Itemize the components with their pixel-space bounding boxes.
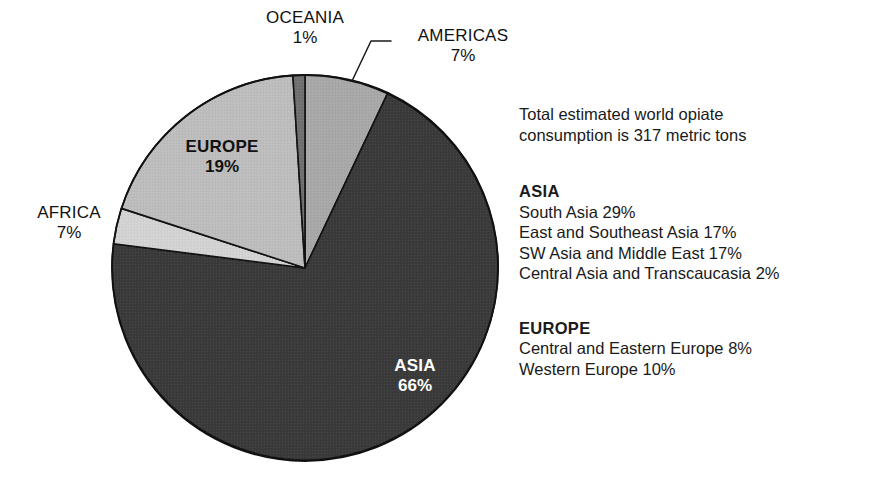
asia-breakdown-row: South Asia 29% [519, 202, 871, 223]
pie-label-africa-name: AFRICA [14, 203, 124, 223]
pie-label-asia-percent: 66% [370, 376, 460, 396]
opiate-consumption-pie-figure: OCEANIA 1% AMERICAS 7% AFRICA 7% EUROPE … [0, 0, 875, 485]
asia-breakdown-row: Central Asia and Transcaucasia 2% [519, 263, 871, 284]
europe-breakdown-group: EUROPE Central and Eastern Europe 8% Wes… [519, 318, 871, 380]
total-consumption-note: Total estimated world opiate consumption… [519, 104, 871, 145]
pie-label-oceania-percent: 1% [230, 28, 380, 48]
pie-label-europe-percent: 19% [152, 157, 292, 177]
europe-breakdown-row: Central and Eastern Europe 8% [519, 338, 871, 359]
asia-breakdown-group: ASIA South Asia 29% East and Southeast A… [519, 181, 871, 284]
pie-label-europe-name: EUROPE [152, 137, 292, 157]
info-panel: Total estimated world opiate consumption… [519, 104, 871, 379]
pie-label-africa-percent: 7% [14, 223, 124, 243]
total-note-line-2: consumption is 317 metric tons [519, 125, 871, 146]
pie-label-oceania: OCEANIA 1% [230, 8, 380, 48]
pie-label-americas-percent: 7% [383, 46, 543, 66]
pie-label-americas: AMERICAS 7% [383, 26, 543, 66]
pie-label-asia: ASIA 66% [370, 356, 460, 396]
pie-label-oceania-name: OCEANIA [230, 8, 380, 28]
europe-breakdown-heading: EUROPE [519, 318, 871, 339]
asia-breakdown-row: East and Southeast Asia 17% [519, 222, 871, 243]
asia-breakdown-row: SW Asia and Middle East 17% [519, 243, 871, 264]
europe-breakdown-row: Western Europe 10% [519, 359, 871, 380]
total-note-line-1: Total estimated world opiate [519, 104, 871, 125]
pie-label-africa: AFRICA 7% [14, 203, 124, 243]
pie-label-europe: EUROPE 19% [152, 137, 292, 177]
pie-label-asia-name: ASIA [370, 356, 460, 376]
pie-label-americas-name: AMERICAS [383, 26, 543, 46]
asia-breakdown-heading: ASIA [519, 181, 871, 202]
